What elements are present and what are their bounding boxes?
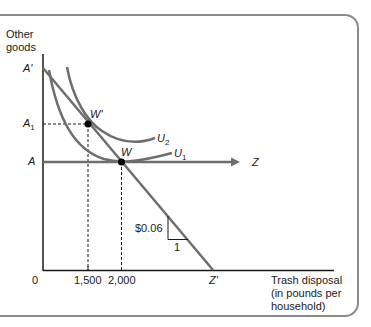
label-u1: U1 xyxy=(174,147,186,164)
x-axis-label-line1: Trash disposal xyxy=(271,274,342,287)
label-a1: A1 xyxy=(23,117,35,134)
label-w-prime: W' xyxy=(90,108,102,121)
label-a1-sub: 1 xyxy=(30,123,34,132)
y-axis-label-line1: Other xyxy=(6,28,36,41)
label-z-prime: Z' xyxy=(209,274,218,287)
tick-label-origin: 0 xyxy=(32,274,38,287)
label-u2-main: U xyxy=(157,132,165,144)
run-label: 1 xyxy=(174,241,180,254)
tick-label-1500: 1,500 xyxy=(74,274,102,287)
label-u1-main: U xyxy=(174,147,182,159)
label-a-prime: A' xyxy=(23,62,32,75)
arrow-z-icon xyxy=(231,158,240,167)
x-axis-label-line3: household) xyxy=(271,300,342,313)
label-a: A xyxy=(28,155,35,168)
slope-label: $0.06 xyxy=(135,222,163,235)
label-u2: U2 xyxy=(157,132,169,149)
label-u2-sub: 2 xyxy=(165,138,169,147)
label-z: Z xyxy=(252,156,259,169)
label-u1-sub: 1 xyxy=(182,153,186,162)
point-w-prime xyxy=(85,121,92,128)
y-axis-label: Other goods xyxy=(6,28,36,54)
x-axis-label: Trash disposal (in pounds per household) xyxy=(271,274,342,313)
indifference-curve-u2 xyxy=(67,67,155,142)
label-w: W xyxy=(121,146,131,159)
tick-label-2000: 2,000 xyxy=(108,274,136,287)
y-axis-label-line2: goods xyxy=(6,41,36,54)
x-axis-label-line2: (in pounds per xyxy=(271,287,342,300)
point-w xyxy=(118,159,125,166)
